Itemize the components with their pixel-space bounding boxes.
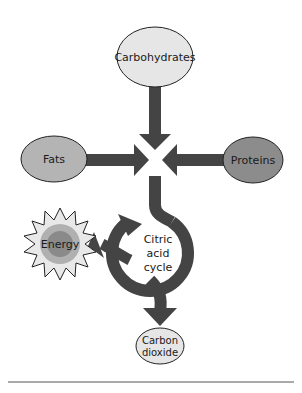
stem-to-cycle <box>155 176 172 222</box>
node-energy: Energy <box>24 208 96 280</box>
carbon-dioxide-line-2: dioxide <box>142 347 178 358</box>
node-carbohydrates: Carbohydrates <box>114 27 195 87</box>
cycle-line-2: acid <box>147 247 170 260</box>
carbohydrates-label: Carbohydrates <box>114 51 195 64</box>
fats-label: Fats <box>43 153 65 166</box>
proteins-label: Proteins <box>231 154 276 167</box>
node-fats: Fats <box>21 136 87 182</box>
metabolism-diagram: Carbohydrates Fats Proteins Energy Citri… <box>0 0 302 393</box>
carbon-dioxide-line-1: Carbon <box>142 335 178 346</box>
energy-label: Energy <box>41 238 80 251</box>
arrow-carbohydrates-down <box>139 86 171 150</box>
arrow-fats-right <box>86 144 149 176</box>
citric-acid-cycle-label: Citric acid cycle <box>144 233 173 274</box>
node-proteins: Proteins <box>223 137 283 183</box>
cycle-line-3: cycle <box>144 261 173 274</box>
node-carbon-dioxide: Carbon dioxide <box>136 328 184 364</box>
arrow-proteins-left <box>162 144 225 176</box>
cycle-line-1: Citric <box>144 233 173 246</box>
